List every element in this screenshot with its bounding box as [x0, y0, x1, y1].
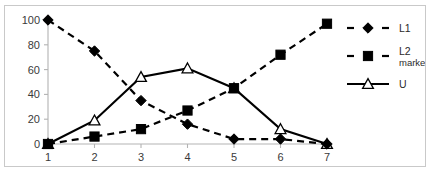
series-markers-l1 — [43, 15, 332, 149]
x-tick-label: 2 — [91, 151, 97, 163]
data-point-l1 — [182, 119, 192, 129]
data-point-l2-marked — [43, 139, 52, 148]
data-point-legend-l1 — [363, 23, 373, 33]
data-point-l1 — [136, 95, 146, 105]
chart-frame: 020406080100 1234567 L1L2markedU — [4, 5, 426, 167]
x-tick-label: 4 — [184, 151, 190, 163]
x-axis-tick-labels: 1234567 — [45, 151, 330, 163]
data-point-u — [182, 63, 193, 73]
legend-label-sub: marked — [399, 57, 425, 68]
x-tick-label: 7 — [324, 151, 330, 163]
legend-entry-u: U — [347, 78, 407, 90]
data-point-l2-marked — [229, 84, 238, 93]
legend-entry-l1: L1 — [347, 22, 411, 34]
y-tick-label: 80 — [28, 39, 40, 51]
y-tick-label: 40 — [28, 88, 40, 100]
data-point-l2-marked — [136, 125, 145, 134]
x-tick-label: 5 — [231, 151, 237, 163]
chart-legend: L1L2markedU — [347, 22, 425, 90]
data-point-l2-marked — [322, 19, 331, 28]
legend-label: L1 — [399, 22, 411, 34]
y-axis-tick-labels: 020406080100 — [22, 14, 40, 150]
y-tick-label: 60 — [28, 64, 40, 76]
x-axis-ticks — [48, 144, 327, 148]
data-point-l2-marked — [183, 106, 192, 115]
data-point-l2-marked — [90, 132, 99, 141]
y-axis-ticks — [44, 20, 48, 144]
x-tick-label: 1 — [45, 151, 51, 163]
line-chart: 020406080100 1234567 L1L2markedU — [5, 6, 425, 166]
data-point-l1 — [229, 134, 239, 144]
y-tick-label: 0 — [34, 138, 40, 150]
legend-label: U — [399, 78, 407, 90]
y-tick-label: 100 — [22, 14, 40, 26]
data-point-l1 — [275, 134, 285, 144]
data-point-l2-marked — [276, 50, 285, 59]
legend-label: L2 — [399, 45, 411, 57]
data-point-legend-l2 — [363, 51, 372, 60]
y-tick-label: 20 — [28, 113, 40, 125]
x-tick-label: 6 — [277, 151, 283, 163]
legend-entry-l2: L2marked — [347, 45, 425, 68]
x-tick-label: 3 — [138, 151, 144, 163]
